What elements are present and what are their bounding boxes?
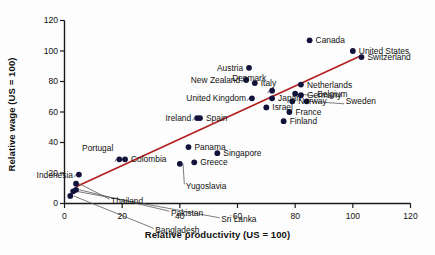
data-point-marker (281, 118, 287, 124)
data-point-label: Ireland (166, 114, 192, 123)
data-point-marker (350, 48, 356, 54)
data-point-label: Sweden (346, 97, 376, 106)
data-point-label: Thailand (111, 197, 143, 206)
y-tick-label: 40 (20, 137, 58, 147)
data-point-marker (307, 37, 313, 43)
data-point-label: United Kingdom (186, 94, 246, 103)
y-tick-label: 80 (20, 76, 58, 86)
data-point-marker (122, 156, 128, 162)
data-point-label: France (295, 108, 321, 117)
y-axis-title: Relative wage (US = 100) (6, 50, 17, 180)
data-point-label: Netherlands (307, 81, 352, 90)
y-tick-label: 100 (20, 46, 58, 56)
x-tick-label: 80 (281, 211, 309, 221)
x-tick-label: 120 (397, 211, 425, 221)
y-tick-label: 0 (20, 198, 58, 208)
x-tick-label: 0 (51, 211, 79, 221)
data-point-label: Germany (307, 91, 341, 100)
data-point-marker (249, 95, 255, 101)
x-tick-label: 100 (339, 211, 367, 221)
data-point-label: Spain (206, 114, 227, 123)
data-point-marker (298, 82, 304, 88)
data-point-marker (177, 161, 183, 167)
data-point-label: Canada (316, 36, 345, 45)
data-point-label: Colombia (131, 155, 166, 164)
data-point-marker (197, 115, 203, 121)
data-point-label: Austria (217, 64, 243, 73)
data-point-label: Panama (194, 143, 225, 152)
data-point-marker (191, 159, 197, 165)
data-point-marker (73, 181, 79, 187)
data-point-label: Pakistan (171, 209, 203, 218)
data-point-label: Greece (200, 158, 227, 167)
data-point-marker (186, 144, 192, 150)
x-axis-title: Relative productivity (US = 100) (0, 229, 435, 240)
data-point-marker (116, 156, 122, 162)
data-point-label: Denmark (232, 74, 266, 83)
y-tick-label: 120 (20, 15, 58, 25)
data-point-label: Israel (272, 103, 292, 112)
data-point-label: Yugoslavia (186, 182, 227, 191)
x-tick-label: 20 (108, 211, 136, 221)
data-point-label: Finland (290, 117, 317, 126)
data-point-label: Switzerland (367, 53, 410, 62)
data-point-marker (246, 65, 252, 71)
data-point-marker (269, 95, 275, 101)
data-point-label: Portugal (82, 144, 113, 153)
y-tick-label: 60 (20, 107, 58, 117)
data-point-marker (269, 88, 275, 94)
data-point-marker (76, 172, 82, 178)
data-point-label: Sri Lanka (221, 215, 256, 224)
scatter-chart: 020406080100120020406080100120 Banglades… (0, 0, 435, 255)
data-point-marker (73, 187, 79, 193)
data-point-label: Singapore (223, 149, 261, 158)
data-point-label: Indonesia (37, 171, 73, 180)
data-point-marker (263, 105, 269, 111)
